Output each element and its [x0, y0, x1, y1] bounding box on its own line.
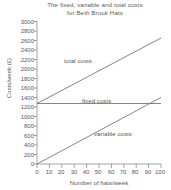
- x-axis-ticks: [37, 164, 161, 168]
- series-label-fixed-costs: fixed costs: [82, 97, 111, 104]
- axis-lines: [37, 21, 161, 164]
- series-line-total-costs: [37, 38, 161, 104]
- chart-plot-area: [0, 0, 171, 190]
- chart-container: The fixed, variable and total costs for …: [0, 0, 171, 190]
- series-label-total-costs: total costs: [64, 57, 92, 64]
- series-label-variable-costs: variable costs: [94, 130, 132, 137]
- y-axis-ticks: [33, 22, 37, 165]
- x-axis-title: Number of hats/week: [37, 179, 161, 186]
